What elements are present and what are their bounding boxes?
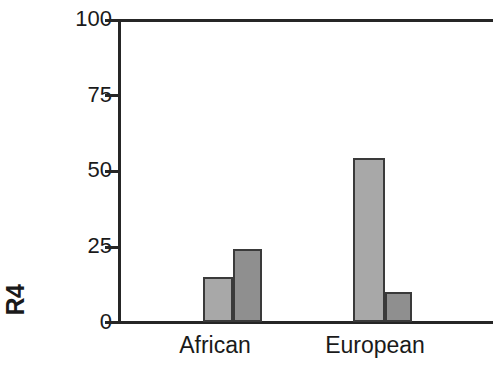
y-tick-label-25: 25 (40, 235, 112, 257)
x-category-label-european: European (300, 332, 450, 358)
bar-european-series-1 (353, 158, 385, 322)
y-tick-mark-100 (105, 19, 119, 22)
y-tick-label-50: 50 (40, 159, 112, 181)
x-category-label-african: African (150, 332, 280, 358)
y-tick-mark-50 (105, 170, 119, 173)
y-tick-mark-75 (105, 94, 119, 97)
bar-chart-figure: R4 100 75 50 25 0 African European (0, 0, 493, 367)
bar-african-series-1 (203, 277, 233, 322)
y-tick-label-100: 100 (40, 8, 112, 30)
bar-european-series-2 (385, 292, 412, 322)
y-axis-title: R4 (3, 272, 27, 328)
y-tick-label-0: 0 (40, 311, 112, 333)
y-axis-tick-labels: 100 75 50 25 0 (40, 0, 112, 367)
bar-african-series-2 (233, 249, 262, 322)
y-tick-mark-0 (105, 321, 119, 324)
y-tick-mark-25 (105, 246, 119, 249)
plot-area (118, 19, 493, 322)
y-tick-label-75: 75 (40, 84, 112, 106)
